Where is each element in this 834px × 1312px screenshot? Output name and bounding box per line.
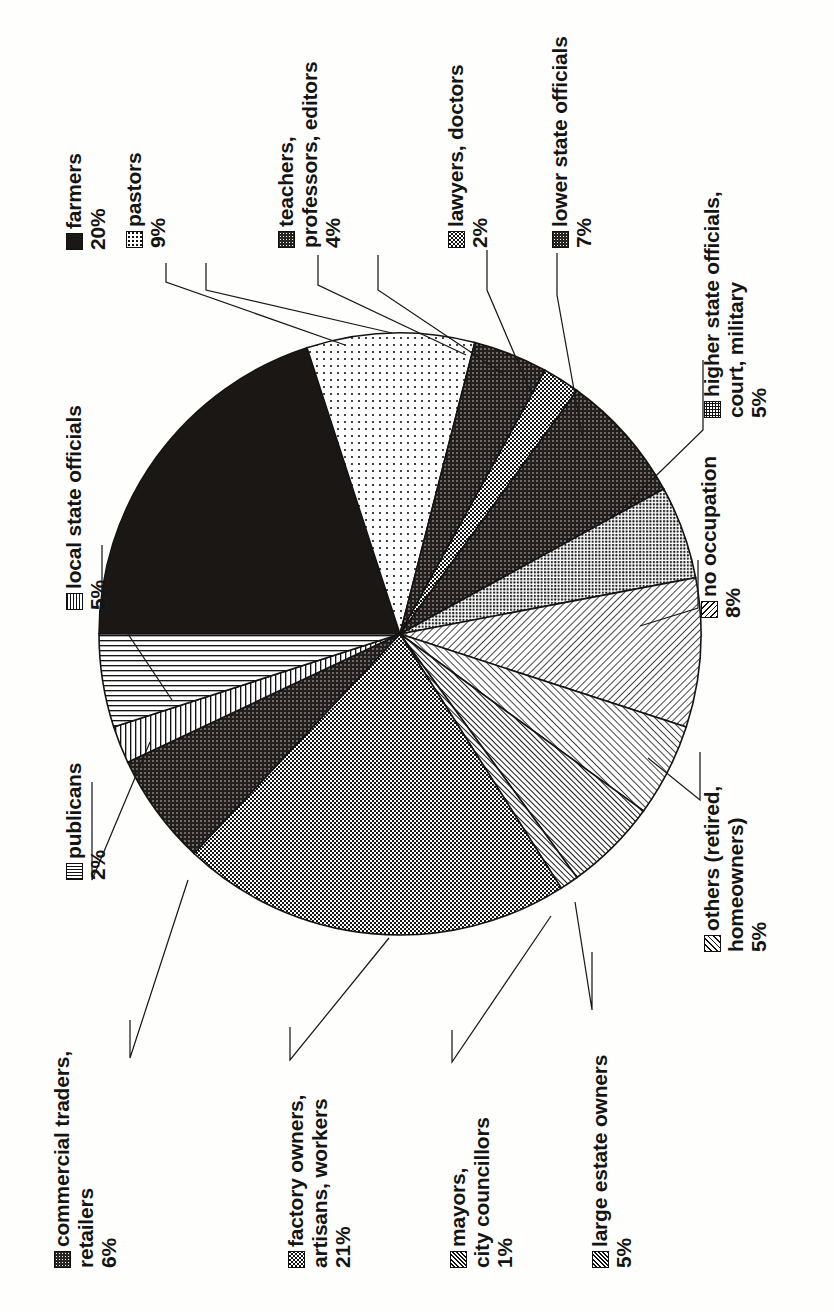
label-mayors: mayors, city councillors 1% [446,1117,517,1268]
label-text: large estate owners [588,1055,611,1247]
leader-farmers [206,263,392,333]
label-value: 2% [86,763,110,880]
swatch-pastors-icon [126,231,143,248]
label-text: higher state officials, [700,192,723,397]
swatch-lawyers-icon [448,231,465,248]
label-value: 8% [721,456,745,618]
label-no-occupation: no occupation 8% [697,456,744,618]
label-value: 5% [86,405,110,610]
label-text: lawyers, doctors [444,64,467,227]
label-text: no occupation [697,456,720,597]
label-text-2: city councillors [470,1117,494,1268]
chart-canvas: farmers 20% local state officials 5% pub… [0,0,834,1312]
label-value: 21% [331,1095,355,1268]
label-value: 5% [747,192,771,418]
label-farmers: farmers 20% [62,153,109,250]
label-lower-state-officials: lower state officials 7% [548,36,595,248]
label-text: local state officials [62,405,85,589]
label-value: 5% [747,786,771,952]
swatch-others-icon [704,935,721,952]
label-text: publicans [62,763,85,859]
swatch-large-estate-owners-icon [592,1251,609,1268]
swatch-commercial-traders-icon [54,1251,71,1268]
swatch-higher-state-officials-icon [704,401,721,418]
label-teachers: teachers, professors, editors 4% [274,62,345,248]
swatch-publicans-icon [66,863,83,880]
swatch-factory-owners-icon [288,1251,305,1268]
swatch-teachers-icon [278,231,295,248]
label-value: 7% [572,36,596,248]
label-value: 5% [612,1055,636,1268]
label-factory-owners: factory owners, artisans, workers 21% [284,1095,355,1268]
label-text: others (retired, [700,786,723,931]
label-local-state-officials: local state officials 5% [62,405,109,610]
label-text-2: homeowners) [724,786,748,952]
label-commercial-traders: commercial traders, retailers 6% [50,1051,121,1268]
label-text: farmers [62,153,85,229]
label-text: teachers, [274,137,297,227]
label-text-2: court, military [724,192,748,418]
label-value: 6% [97,1051,121,1268]
label-text: commercial traders, [50,1051,73,1247]
label-value: 2% [468,64,492,248]
swatch-farmers-icon [66,233,83,250]
label-publicans: publicans 2% [62,763,109,880]
swatch-mayors-icon [450,1251,467,1268]
label-value: 4% [321,62,345,248]
pie-slices [99,333,701,935]
label-value: 20% [86,153,110,250]
label-text-2: retailers [74,1051,98,1268]
label-lawyers: lawyers, doctors 2% [444,64,491,248]
label-text-2: professors, editors [298,62,322,248]
swatch-no-occupation-icon [701,601,718,618]
label-text: factory owners, [284,1095,307,1247]
label-text: pastors [122,153,145,227]
swatch-lower-state-officials-icon [552,231,569,248]
label-large-estate-owners: large estate owners 5% [588,1055,635,1268]
label-text: mayors, [446,1168,469,1247]
label-value: 1% [493,1117,517,1268]
label-higher-state-officials: higher state officials, court, military … [700,192,771,418]
label-text: lower state officials [548,36,571,227]
swatch-local-state-officials-icon [66,593,83,610]
label-others: others (retired, homeowners) 5% [700,786,771,952]
label-text-2: artisans, workers [308,1095,332,1268]
label-value: 9% [146,153,170,248]
label-pastors: pastors 9% [122,153,169,248]
